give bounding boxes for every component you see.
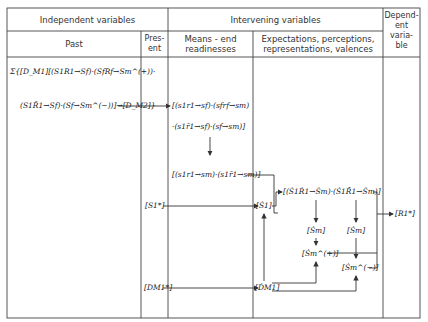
- expectation-sm-plus: [Ṡm^(+)]: [302, 249, 339, 259]
- expectation-sm-left: [Ṡm]: [307, 226, 325, 236]
- expectation-compound: [(Ṡ1Ṙ1→Ṡm)·(Ṡ1R̄̇1→Ṡm)]: [283, 187, 381, 197]
- expectation-sm-minus: [Ṡm^(−)]: [342, 263, 379, 273]
- header-means-end-readinesses: Means - end readinesses: [168, 34, 253, 54]
- means-end-box1-line2: ·(s1r̄1→sf)·(sf→sm)]: [172, 122, 245, 132]
- header-past: Past: [7, 39, 141, 49]
- header-independent-variables: Independent variables: [7, 15, 168, 25]
- header-expectations: Expectations, perceptions, representatio…: [253, 34, 383, 54]
- diagram-frame: Independent variables Intervening variab…: [0, 0, 428, 322]
- header-intervening-variables: Intervening variables: [168, 15, 383, 25]
- dependent-r1-star: [R1*]: [395, 209, 415, 219]
- expectation-s1-dot: [Ṡ1]: [256, 201, 272, 211]
- header-dependent-variable: Depend- ent varia- ble: [383, 11, 420, 51]
- present-s1-star: [S1*]: [145, 201, 165, 211]
- present-dm1-star: [DM1*]: [144, 283, 172, 293]
- past-formula-line1: Σ{[D_M1][(S1R1→Sf)·(SfRf→Sm^(+))·: [10, 67, 155, 77]
- means-end-box2: [(s1r1→sm)·(s1r̄1→sm)]: [172, 170, 260, 180]
- past-formula-line2: (S1R̄1→Sf)·(Sf→Sm^(−))]→[D_M2]}: [20, 101, 156, 111]
- means-end-box1-line1: [(s1r1→sf)·(sfrf→sm): [172, 101, 249, 111]
- header-present: Pres- ent: [141, 34, 168, 54]
- expectation-dm1-dot: [ḊM1]: [255, 283, 279, 293]
- expectation-sm-right: [Ṡm]: [347, 226, 365, 236]
